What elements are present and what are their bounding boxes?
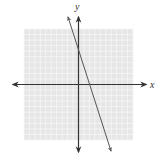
coordinate-plane: y x	[0, 0, 158, 156]
x-axis-label: x	[149, 79, 155, 90]
y-axis-label: y	[74, 1, 80, 12]
